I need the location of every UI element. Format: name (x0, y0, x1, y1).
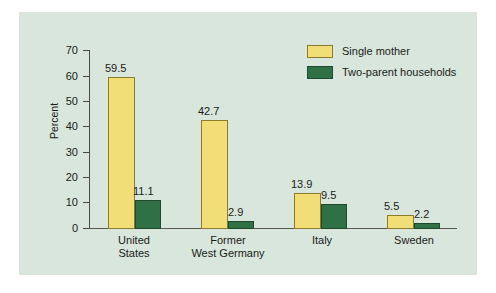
y-tick-20 (83, 177, 89, 178)
y-tick-label-30: 30 (38, 147, 78, 158)
y-tick-label-40: 40 (38, 121, 78, 132)
plot-area: Percent 0 10 20 30 40 50 60 70 59.5 11.1… (0, 0, 496, 293)
legend-item-single-mother[interactable]: Single mother (307, 42, 456, 61)
bar-value-single-mother-former-west-germany: 42.7 (198, 106, 219, 117)
legend-swatch-two-parent-households (307, 66, 333, 79)
bar-value-two-parent-italy: 9.5 (321, 190, 336, 201)
y-tick-label-20: 20 (38, 172, 78, 183)
chart-figure: Percent 0 10 20 30 40 50 60 70 59.5 11.1… (0, 0, 496, 293)
x-category-label-italy: Italy (277, 234, 367, 247)
bar-value-single-mother-sweden: 5.5 (384, 201, 399, 212)
y-axis-line (89, 50, 90, 229)
bar-single-mother-italy[interactable] (294, 193, 321, 229)
y-tick-70 (83, 50, 89, 51)
y-tick-label-10: 10 (38, 197, 78, 208)
bar-value-single-mother-united-states: 59.5 (105, 63, 126, 74)
y-tick-label-60: 60 (38, 71, 78, 82)
legend-item-two-parent-households[interactable]: Two-parent households (307, 63, 456, 82)
y-tick-60 (83, 76, 89, 77)
legend-swatch-single-mother (307, 45, 333, 58)
y-tick-30 (83, 152, 89, 153)
y-tick-10 (83, 202, 89, 203)
y-tick-0 (83, 228, 89, 229)
x-category-label-former-west-germany: Former West Germany (168, 234, 288, 260)
y-tick-40 (83, 126, 89, 127)
bar-two-parent-united-states[interactable] (135, 200, 161, 229)
bar-two-parent-sweden[interactable] (414, 223, 440, 229)
bar-value-two-parent-united-states: 11.1 (133, 186, 154, 197)
y-tick-50 (83, 101, 89, 102)
bar-single-mother-sweden[interactable] (387, 215, 414, 229)
bar-single-mother-former-west-germany[interactable] (201, 120, 228, 229)
bar-two-parent-italy[interactable] (321, 204, 347, 229)
y-tick-label-50: 50 (38, 96, 78, 107)
chart-legend: Single mother Two-parent households (307, 42, 456, 84)
bar-two-parent-former-west-germany[interactable] (228, 221, 254, 229)
bar-value-two-parent-sweden: 2.2 (414, 209, 429, 220)
y-tick-label-0: 0 (38, 223, 78, 234)
x-category-label-sweden: Sweden (368, 234, 460, 247)
bar-single-mother-united-states[interactable] (108, 77, 135, 229)
y-tick-label-70: 70 (38, 45, 78, 56)
bar-value-two-parent-former-west-germany: 2.9 (228, 207, 243, 218)
bar-value-single-mother-italy: 13.9 (291, 179, 312, 190)
legend-label-single-mother: Single mother (342, 46, 410, 57)
legend-label-two-parent-households: Two-parent households (342, 67, 456, 78)
